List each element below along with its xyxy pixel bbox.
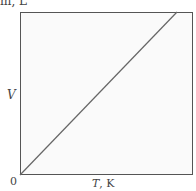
x-axis-label: T, K — [92, 177, 115, 190]
plot-line-layer — [0, 0, 196, 191]
x-axis-unit: , K — [99, 177, 114, 190]
origin-label: 0 — [10, 175, 17, 188]
data-line — [20, 12, 177, 175]
y-axis-label: V — [7, 88, 16, 102]
